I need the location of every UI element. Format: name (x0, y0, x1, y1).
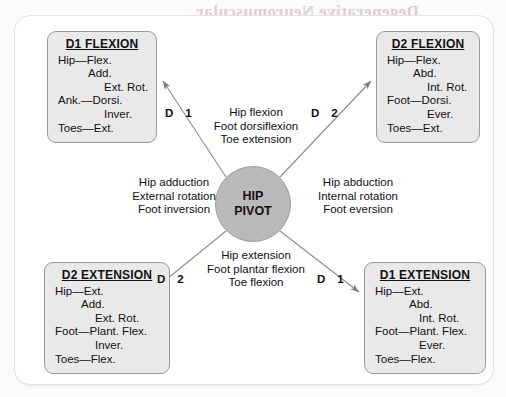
pattern-line: Toes—Flex. (55, 353, 159, 367)
diagonal-label-top-left: D1 (165, 107, 192, 119)
pattern-line: Toes—Ext. (387, 122, 469, 136)
motion-line: Toe flexion (198, 276, 314, 290)
diagonal-number: 2 (177, 273, 183, 285)
diagonal-label-bottom-left: D2 (157, 273, 184, 285)
motion-label-bottom: Hip extension Foot plantar flexion Toe f… (198, 249, 314, 290)
hub-label-line1: HIP (243, 189, 264, 204)
motion-label-left: Hip adduction External rotation Foot inv… (122, 176, 226, 217)
diagonal-letter: D (157, 273, 165, 285)
diagonal-letter: D (311, 107, 319, 119)
pattern-box-d1-extension: D1 EXTENSION Hip—Ext. Abd. Int. Rot. Foo… (364, 262, 486, 374)
motion-line: Toe extension (204, 133, 308, 147)
pattern-line: Ext. Rot. (58, 81, 146, 95)
pattern-line: Toes—Ext. (58, 122, 146, 136)
motion-line: Foot inversion (122, 203, 226, 217)
pattern-box-d2-extension: D2 EXTENSION Hip—Ext. Add. Ext. Rot. Foo… (44, 262, 170, 374)
pattern-line: Inver. (58, 108, 146, 122)
hip-pivot-hub: HIP PIVOT (215, 166, 291, 242)
pattern-line: Int. Rot. (387, 81, 469, 95)
pattern-box-title: D1 FLEXION (58, 38, 146, 52)
pattern-box-d2-flexion: D2 FLEXION Hip—Flex. Abd. Int. Rot. Foot… (376, 31, 480, 143)
motion-line: Foot eversion (306, 203, 410, 217)
motion-line: Hip flexion (204, 106, 308, 120)
diagonal-letter: D (165, 107, 173, 119)
diagram-page: Degenerative Neuromuscular Disorders rei… (0, 0, 506, 397)
pattern-line: Add. (55, 298, 159, 312)
pattern-line: Hip—Flex. (387, 54, 469, 68)
pattern-line: Hip—Ext. (375, 285, 475, 299)
pattern-line: Add. (58, 67, 146, 81)
pattern-line: Abd. (375, 298, 475, 312)
motion-line: Hip abduction (306, 176, 410, 190)
pattern-box-title: D1 EXTENSION (375, 269, 475, 283)
motion-line: Foot dorsiflexion (204, 120, 308, 134)
pattern-line: Toes—Flex. (375, 353, 475, 367)
motion-line: Foot plantar flexion (198, 263, 314, 277)
pattern-line: Abd. (387, 67, 469, 81)
motion-label-right: Hip abduction Internal rotation Foot eve… (306, 176, 410, 217)
motion-line: Hip extension (198, 249, 314, 263)
diagonal-letter: D (317, 273, 325, 285)
motion-line: Hip adduction (122, 176, 226, 190)
pattern-line: Int. Rot. (375, 312, 475, 326)
motion-label-top: Hip flexion Foot dorsiflexion Toe extens… (204, 106, 308, 147)
diagonal-label-top-right: D2 (311, 107, 338, 119)
pattern-box-title: D2 EXTENSION (55, 269, 159, 283)
pattern-line: Foot—Dorsi. (387, 94, 469, 108)
pattern-line: Inver. (55, 339, 159, 353)
motion-line: Internal rotation (306, 190, 410, 204)
pattern-line: Ever. (387, 108, 469, 122)
motion-line: External rotation (122, 190, 226, 204)
pattern-line: Foot—Plant. Flex. (55, 325, 159, 339)
pattern-line: Hip—Flex. (58, 54, 146, 68)
pattern-line: Ever. (375, 339, 475, 353)
diagonal-label-bottom-right: D1 (317, 273, 344, 285)
pattern-line: Ext. Rot. (55, 312, 159, 326)
diagonal-number: 1 (185, 107, 191, 119)
pattern-line: Foot—Plant. Flex. (375, 325, 475, 339)
pattern-box-d1-flexion: D1 FLEXION Hip—Flex. Add. Ext. Rot. Ank.… (47, 31, 157, 143)
pattern-line: Ank.—Dorsi. (58, 94, 146, 108)
hub-label-line2: PIVOT (234, 204, 272, 219)
pattern-box-title: D2 FLEXION (387, 38, 469, 52)
pattern-line: Hip—Ext. (55, 285, 159, 299)
diagonal-number: 1 (337, 273, 343, 285)
diagonal-number: 2 (331, 107, 337, 119)
